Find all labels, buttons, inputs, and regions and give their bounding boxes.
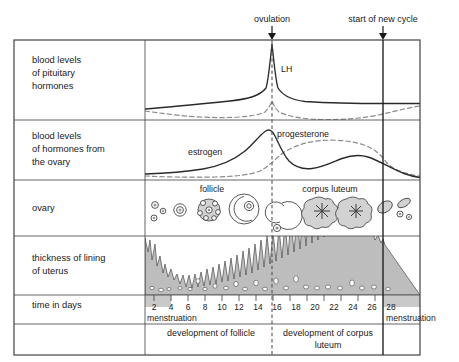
secondary-follicle-icon bbox=[198, 199, 221, 221]
menstrual-cycle-diagram: ovulation start of new cycle blood level… bbox=[0, 0, 459, 362]
mature-follicle-icon bbox=[229, 194, 259, 224]
day-tick-8: 8 bbox=[203, 302, 208, 312]
day-tick-18: 18 bbox=[291, 302, 301, 312]
row-ovary: ovary follicle corpus luteum bbox=[14, 180, 420, 236]
day-tick-28: 28 bbox=[386, 302, 396, 312]
day-tick-16: 16 bbox=[272, 302, 282, 312]
row-label-pituitary-line2: of pituitary bbox=[32, 68, 75, 78]
follicle-label: follicle bbox=[200, 184, 225, 194]
development-of-follicle-label: development of follicle bbox=[167, 328, 255, 338]
development-of-corpus-luteum-line2: luteum bbox=[315, 340, 342, 350]
menstruation-band-start bbox=[145, 295, 171, 307]
row-label-pituitary-line1: blood levels bbox=[32, 55, 81, 65]
menstruation-label-end: menstruation bbox=[386, 313, 436, 323]
row-label-pituitary-line3: hormones bbox=[32, 81, 74, 91]
development-of-corpus-luteum-line1: development of corpus bbox=[283, 328, 373, 338]
diagram-svg: ovulation start of new cycle blood level… bbox=[0, 0, 459, 362]
day-tick-4: 4 bbox=[169, 302, 174, 312]
progesterone-label: progesterone bbox=[277, 129, 329, 139]
row-label-uterus-line2: of uterus bbox=[32, 266, 69, 276]
row-label-ovary: ovary bbox=[32, 203, 55, 213]
primary-follicle-icon bbox=[174, 204, 186, 216]
lh-label: LH bbox=[281, 64, 292, 74]
row-label-uterus-line1: thickness of lining bbox=[32, 253, 105, 263]
row-label-time-in-days: time in days bbox=[32, 300, 82, 310]
row-pituitary-hormones: blood levels of pituitary hormones LH FS… bbox=[14, 40, 420, 130]
row-label-ovary-hormones-line2: of hormones from bbox=[32, 144, 105, 154]
day-tick-24: 24 bbox=[348, 302, 358, 312]
start-of-new-cycle-label: start of new cycle bbox=[348, 14, 418, 24]
row-ovarian-hormones: blood levels of hormones from the ovary … bbox=[14, 120, 420, 180]
day-tick-10: 10 bbox=[217, 302, 227, 312]
day-tick-22: 22 bbox=[329, 302, 339, 312]
row-label-ovary-hormones-line3: the ovary bbox=[32, 157, 71, 167]
day-tick-14: 14 bbox=[253, 302, 263, 312]
day-tick-6: 6 bbox=[186, 302, 191, 312]
day-tick-2: 2 bbox=[152, 302, 157, 312]
corpus-luteum-label: corpus luteum bbox=[302, 184, 357, 194]
day-tick-26: 26 bbox=[367, 302, 377, 312]
row-label-ovary-hormones-line1: blood levels bbox=[32, 131, 81, 141]
ovulation-label: ovulation bbox=[254, 14, 290, 24]
day-tick-20: 20 bbox=[310, 302, 320, 312]
estrogen-label: estrogen bbox=[188, 147, 222, 157]
day-tick-12: 12 bbox=[234, 302, 244, 312]
menstruation-label-start: menstruation bbox=[147, 313, 197, 323]
